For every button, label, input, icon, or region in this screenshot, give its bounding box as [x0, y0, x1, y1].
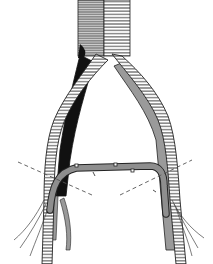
left-graft-limb [42, 54, 108, 264]
aorta [78, 0, 130, 58]
right-graft-limb [112, 54, 186, 264]
vascular-graft-illustration [0, 0, 213, 264]
